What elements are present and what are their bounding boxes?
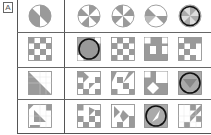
- wheel-option-1[interactable]: [77, 4, 101, 28]
- wheel-reference: [28, 4, 52, 28]
- complex-option-3-circled[interactable]: [144, 104, 168, 128]
- complex-reference: [28, 104, 52, 128]
- row-divider: [17, 32, 211, 33]
- checker-option-3[interactable]: [144, 37, 168, 61]
- complex-option-4[interactable]: [178, 104, 202, 128]
- wheel-option-4-circled[interactable]: [178, 4, 202, 28]
- triangle-reference: [28, 71, 52, 95]
- complex-option-1[interactable]: [77, 104, 101, 128]
- checker-option-1-circled[interactable]: [77, 37, 101, 61]
- checker-option-4[interactable]: [178, 37, 202, 61]
- row-divider: [17, 67, 211, 68]
- triangle-option-1[interactable]: [77, 71, 101, 95]
- checker-option-2[interactable]: [111, 37, 135, 61]
- complex-option-2[interactable]: [111, 104, 135, 128]
- triangle-option-3[interactable]: [144, 71, 168, 95]
- panel-label: A: [3, 2, 13, 13]
- wheel-option-2[interactable]: [111, 4, 135, 28]
- row-divider: [17, 99, 211, 100]
- triangle-option-4-circled[interactable]: [178, 71, 202, 95]
- checker-reference: [28, 37, 52, 61]
- triangle-option-2[interactable]: [111, 71, 135, 95]
- wheel-option-3[interactable]: [144, 4, 168, 28]
